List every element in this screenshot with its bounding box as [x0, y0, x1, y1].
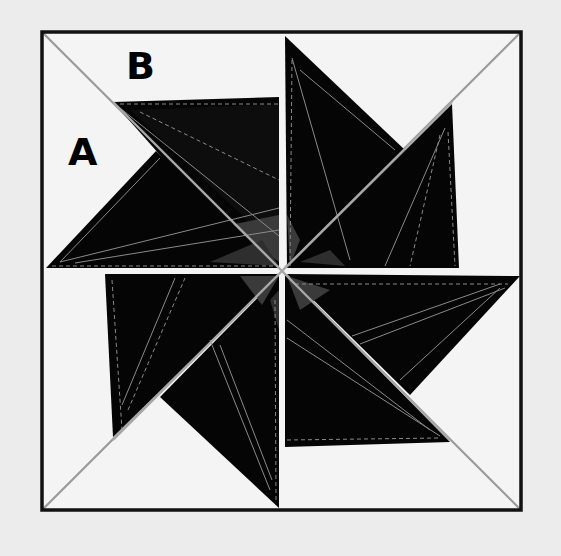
label-B: B — [126, 44, 155, 88]
label-A: A — [68, 130, 98, 174]
pinwheel-star-quilt-diagram: B A — [0, 0, 561, 556]
